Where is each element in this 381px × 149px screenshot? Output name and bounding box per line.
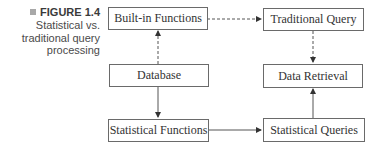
node-database: Database	[109, 64, 209, 87]
node-statistical-queries: Statistical Queries	[263, 118, 365, 142]
node-traditional-query: Traditional Query	[263, 8, 364, 31]
node-statistical-functions: Statistical Functions	[108, 119, 209, 142]
node-data-retrieval: Data Retrieval	[263, 64, 363, 88]
node-builtin-functions: Built-in Functions	[108, 7, 208, 30]
